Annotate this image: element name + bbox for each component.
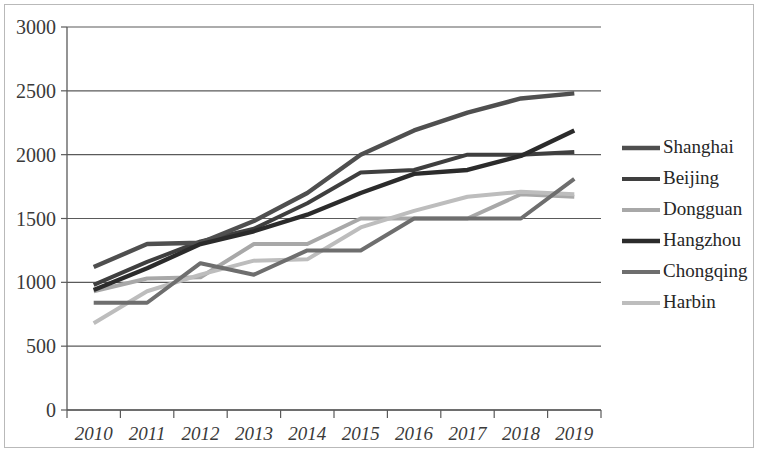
legend-label-harbin: Harbin bbox=[663, 291, 716, 312]
legend-label-chongqing: Chongqing bbox=[663, 260, 748, 281]
y-axis-tick-label: 500 bbox=[26, 335, 56, 357]
y-axis-tick-label: 1500 bbox=[16, 208, 56, 230]
line-chart-svg: 0500100015002000250030002010201120122013… bbox=[0, 0, 761, 453]
x-axis-tick-label: 2012 bbox=[182, 423, 221, 444]
x-axis-tick-label: 2019 bbox=[555, 423, 594, 444]
plot-area-wrapper: 0500100015002000250030002010201120122013… bbox=[0, 0, 761, 453]
y-axis-tick-label: 0 bbox=[46, 399, 56, 421]
x-axis-tick-label: 2010 bbox=[75, 423, 114, 444]
y-axis-tick-label: 3000 bbox=[16, 16, 56, 38]
y-axis-tick-label: 2000 bbox=[16, 144, 56, 166]
x-axis-tick-label: 2018 bbox=[502, 423, 541, 444]
x-axis-tick-label: 2013 bbox=[235, 423, 273, 444]
legend-label-hangzhou: Hangzhou bbox=[663, 229, 742, 250]
x-axis-tick-label: 2016 bbox=[395, 423, 434, 444]
series-line-shanghai bbox=[94, 93, 575, 267]
x-axis-tick-label: 2015 bbox=[342, 423, 380, 444]
y-axis-tick-label: 1000 bbox=[16, 271, 56, 293]
y-axis-tick-label: 2500 bbox=[16, 80, 56, 102]
legend-label-shanghai: Shanghai bbox=[663, 136, 734, 157]
legend-label-beijing: Beijing bbox=[663, 167, 719, 188]
x-axis-tick-label: 2017 bbox=[449, 423, 489, 444]
x-axis-tick-label: 2014 bbox=[288, 423, 327, 444]
legend-label-dongguan: Dongguan bbox=[663, 198, 743, 219]
x-axis-tick-label: 2011 bbox=[129, 423, 166, 444]
chart-figure: 0500100015002000250030002010201120122013… bbox=[0, 0, 761, 453]
